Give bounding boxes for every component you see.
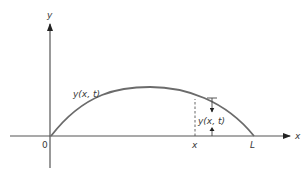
displacement-label: y(x, t) (197, 116, 225, 126)
x-axis-label: x (294, 131, 301, 141)
origin-label: 0 (42, 140, 48, 150)
dimension-arrow-up-head (210, 127, 215, 131)
x-position-label: x (191, 140, 198, 150)
curve-label: y(x, t) (72, 89, 100, 99)
y-axis-label: y (46, 10, 53, 20)
string-displacement-diagram: y y(x, t) y(x, t) 0 x L x (0, 0, 306, 175)
end-point-label: L (250, 140, 255, 150)
